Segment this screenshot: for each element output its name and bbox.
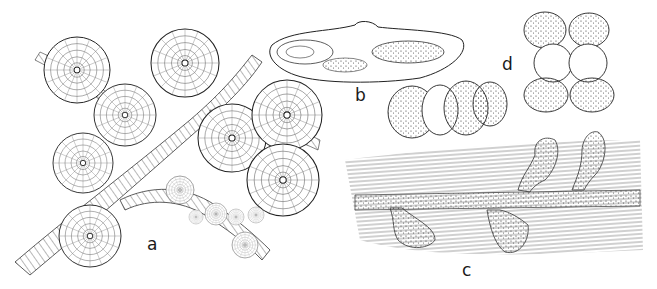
panel-label-a: a xyxy=(147,236,157,253)
panel-a-drawing xyxy=(15,29,322,275)
panel-label-b: b xyxy=(355,87,366,104)
cell-cluster-drawing xyxy=(388,81,507,138)
panel-d-drawing xyxy=(524,12,614,112)
panel-label-d: d xyxy=(502,56,513,73)
panel-b-drawing xyxy=(270,21,464,82)
panel-c-drawing xyxy=(345,132,643,255)
illustration xyxy=(0,0,657,289)
panel-label-c: c xyxy=(462,262,471,279)
